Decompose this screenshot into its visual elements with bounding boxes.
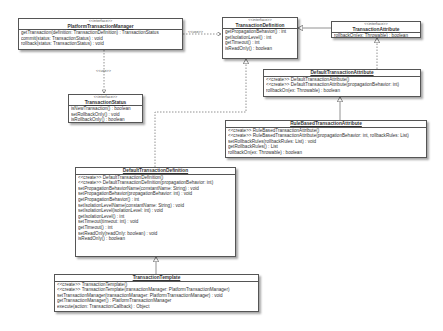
class-members: <<create>> DefaultTransactionDefinition(… xyxy=(76,175,235,242)
class-header: <<interface>> TransactionDefinition xyxy=(223,18,297,29)
class-header: <<interface>> PlatformTransactionManager xyxy=(19,19,182,30)
member: isRollbackOnly() : boolean xyxy=(71,117,140,123)
member: <<create>> TransactionTemplate(transacti… xyxy=(57,287,256,293)
class-members: <<create>> RuleBasedTransactionAttribute… xyxy=(226,128,426,156)
member: <<create>> DefaultTransactionAttribute(p… xyxy=(266,82,418,88)
class-header: DefaultTransactionAttribute xyxy=(264,70,420,77)
class-header: DefaultTransactionDefinition xyxy=(76,168,235,175)
class-platform-transaction-manager[interactable]: <<interface>> PlatformTransactionManager… xyxy=(18,18,183,50)
member: <<create>> RuleBasedTransactionAttribute… xyxy=(228,133,424,139)
member: <<create>> DefaultTransactionDefinition(… xyxy=(78,180,233,186)
class-transaction-template[interactable]: TransactionTemplate <<create>> Transacti… xyxy=(54,274,259,312)
class-name: DefaultTransactionDefinition xyxy=(77,168,234,174)
class-name: TransactionStatus xyxy=(70,100,141,106)
class-members: <<create>> TransactionTemplate() <<creat… xyxy=(55,282,258,310)
class-members: isNewTransaction() : boolean setRollback… xyxy=(69,106,142,123)
member: execute(action: TransactionCallback) : O… xyxy=(57,304,256,310)
class-members: getPropagationBehavior() : int getIsolat… xyxy=(223,29,297,51)
class-members: getTransaction(definition: TransactionDe… xyxy=(19,30,182,47)
use-label-status: <<use>> xyxy=(96,69,111,73)
class-name: TransactionTemplate xyxy=(56,275,257,281)
class-name: RuleBasedTransactionAttribute xyxy=(227,121,425,127)
member: isNewTransaction() : boolean xyxy=(71,106,140,112)
class-name: DefaultTransactionAttribute xyxy=(265,70,419,76)
member: rollbackOn(ex: Throwable) : boolean xyxy=(266,88,418,94)
class-members: rollbackOn(ex: Throwable) : boolean xyxy=(332,33,420,39)
class-default-transaction-definition[interactable]: DefaultTransactionDefinition <<create>> … xyxy=(75,167,236,257)
uml-diagram: <<use>> <<use>> <<interface>> PlatformTr… xyxy=(0,0,443,331)
class-header: <<interface>> TransactionStatus xyxy=(69,95,142,106)
member: rollbackOn(ex: Throwable) : boolean xyxy=(228,150,424,156)
use-label-definition: <<use>> xyxy=(188,30,203,34)
class-name: TransactionDefinition xyxy=(224,23,296,29)
member: isReadOnly() : boolean xyxy=(78,236,233,242)
member: getPropagationBehavior() : int xyxy=(225,29,295,35)
class-transaction-status[interactable]: <<interface>> TransactionStatus isNewTra… xyxy=(68,94,143,123)
class-name: TransactionAttribute xyxy=(333,27,419,33)
class-transaction-definition[interactable]: <<interface>> TransactionDefinition getP… xyxy=(222,17,298,59)
class-header: RuleBasedTransactionAttribute xyxy=(226,121,426,128)
member: isReadOnly() : boolean xyxy=(225,46,295,52)
member: rollback(status: TransactionStatus) : vo… xyxy=(21,41,180,47)
class-header: <<interface>> TransactionAttribute xyxy=(332,22,420,33)
member: getTransaction(definition: TransactionDe… xyxy=(21,30,180,36)
class-transaction-attribute[interactable]: <<interface>> TransactionAttribute rollb… xyxy=(331,21,421,38)
class-header: TransactionTemplate xyxy=(55,275,258,282)
class-default-transaction-attribute[interactable]: DefaultTransactionAttribute <<create>> D… xyxy=(263,69,421,97)
class-name: PlatformTransactionManager xyxy=(20,24,181,30)
class-members: <<create>> DefaultTransactionAttribute()… xyxy=(264,77,420,94)
member: rollbackOn(ex: Throwable) : boolean xyxy=(334,33,418,39)
class-rule-based-transaction-attribute[interactable]: RuleBasedTransactionAttribute <<create>>… xyxy=(225,120,427,158)
